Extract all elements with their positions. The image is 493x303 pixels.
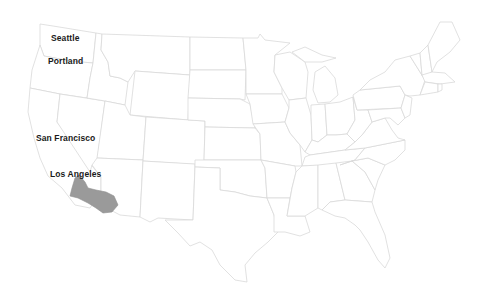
state-arkansas[interactable] [261, 160, 296, 198]
us-map [0, 0, 493, 303]
state-outlines [28, 22, 460, 282]
city-label-los-angeles: Los Angeles [50, 169, 101, 179]
state-new-mexico[interactable] [140, 161, 195, 222]
state-iowa[interactable] [246, 94, 289, 124]
state-north-dakota[interactable] [190, 37, 246, 70]
state-wyoming[interactable] [130, 71, 190, 120]
city-label-portland: Portland [48, 56, 83, 66]
state-indiana[interactable] [311, 104, 327, 142]
city-label-san-francisco: San Francisco [36, 133, 95, 143]
state-florida[interactable] [322, 200, 390, 268]
state-kansas[interactable] [204, 127, 261, 160]
state-maine[interactable] [428, 22, 460, 72]
city-label-seattle: Seattle [51, 33, 80, 43]
state-rhode-island[interactable] [438, 84, 442, 92]
state-colorado[interactable] [143, 117, 205, 165]
state-south-dakota[interactable] [188, 70, 246, 100]
